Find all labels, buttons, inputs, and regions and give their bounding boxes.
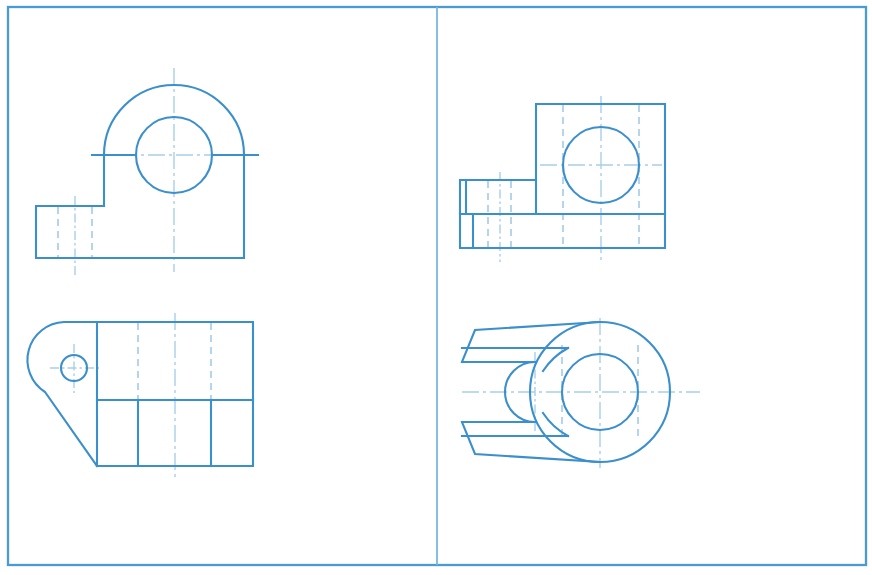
top-view-centerlines <box>50 313 175 477</box>
front-view-bearing-bracket <box>36 68 258 278</box>
drawing-sheet <box>0 0 872 575</box>
bottom-view-centerlines <box>462 318 700 468</box>
drawing-canvas <box>0 0 872 575</box>
top-view-bearing-bracket <box>27 313 253 477</box>
bottom-view-bearing-bracket <box>462 318 700 468</box>
front-view-centerlines <box>75 68 258 278</box>
side-view-hidden-edges <box>488 105 639 247</box>
front-view-outline <box>36 85 258 258</box>
side-view-bearing-bracket <box>460 96 665 262</box>
top-view-outline <box>27 322 253 466</box>
